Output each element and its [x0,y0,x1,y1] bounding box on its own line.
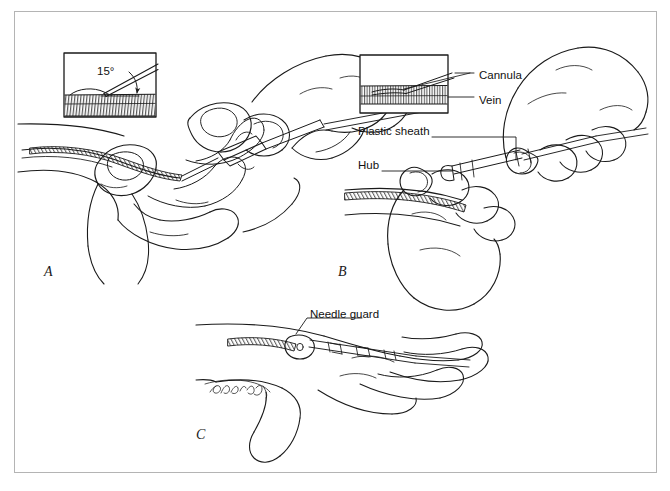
panel-letter-a: A [44,265,53,279]
label-hub: Hub [358,159,379,172]
panel-a-angle-inset [64,53,158,117]
figure-root: 15° Cannula Vein Plastic sheath Hub Need… [0,0,670,491]
panel-b-leaders [448,73,474,97]
panel-b-device [441,128,648,181]
panel-b-patient-hand [345,188,466,226]
label-vein: Vein [479,94,501,107]
panel-b-vein-inset [360,55,470,113]
angle-label-15-degrees: 15° [97,65,114,78]
label-needle-guard: Needle guard [310,308,379,321]
label-plastic-sheath: Plastic sheath [358,125,430,138]
panel-a-cannula-device [182,106,422,181]
panel-b-lower-hand [388,168,515,311]
panel-letter-c: C [196,428,205,442]
panel-b-upper-hand [503,47,648,181]
panel-letter-b: B [338,265,347,279]
panel-a-vein-and-skin [22,147,182,181]
panel-b-artwork [345,47,648,310]
artist-signature [205,380,270,398]
panel-c-artwork [196,318,488,462]
label-cannula: Cannula [479,69,522,82]
